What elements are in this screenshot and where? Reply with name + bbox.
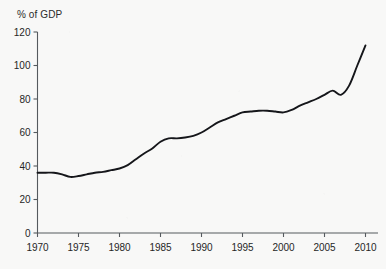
y-axis-tick-label: 40 (19, 161, 31, 172)
data-series-line (38, 45, 366, 177)
y-axis-ticks (34, 32, 38, 233)
y-axis-tick-label: 100 (14, 60, 31, 71)
x-axis-tick-label: 2010 (354, 242, 377, 253)
x-axis-group: 197019751980198519901995200020052010 (26, 233, 378, 253)
chart-container: % of GDP 020406080100120 197019751980198… (0, 0, 386, 269)
x-axis-tick-label: 2000 (272, 242, 295, 253)
x-axis-tick-label: 2005 (313, 242, 336, 253)
x-axis-tick-label: 1970 (26, 242, 49, 253)
y-axis-tick-label: 120 (14, 27, 31, 38)
x-axis-tick-label: 1975 (67, 242, 90, 253)
x-axis-ticks (38, 233, 366, 237)
line-chart-svg: 020406080100120 197019751980198519901995… (0, 0, 386, 269)
y-axis-tick-label: 0 (25, 228, 31, 239)
y-axis-tick-label: 60 (19, 127, 31, 138)
y-axis-tick-label: 80 (19, 94, 31, 105)
y-axis-tick-label: 20 (19, 194, 31, 205)
y-axis-group: 020406080100120 (14, 27, 38, 239)
plot-area (38, 45, 366, 177)
x-axis-tick-labels: 197019751980198519901995200020052010 (26, 242, 377, 253)
x-axis-tick-label: 1985 (149, 242, 172, 253)
x-axis-tick-label: 1990 (190, 242, 213, 253)
x-axis-tick-label: 1980 (108, 242, 131, 253)
y-axis-tick-labels: 020406080100120 (14, 27, 31, 239)
x-axis-tick-label: 1995 (231, 242, 254, 253)
